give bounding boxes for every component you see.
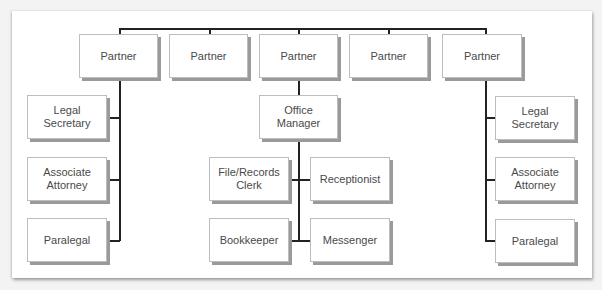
- partner-box-1: Partner: [79, 34, 158, 78]
- partner-box-4: Partner: [349, 34, 428, 78]
- right-associate-attorney-label: Associate Attorney: [506, 166, 564, 192]
- partner-box-5: Partner: [442, 34, 522, 78]
- left-branch-2: [107, 179, 120, 181]
- bookkeeper-box: Bookkeeper: [209, 218, 289, 262]
- left-branch-1: [107, 117, 120, 119]
- messenger-box: Messenger: [310, 218, 390, 262]
- office-manager-box: Office Manager: [259, 95, 338, 139]
- right-paralegal-box: Paralegal: [495, 219, 575, 263]
- right-branch-1: [485, 117, 495, 119]
- file-records-clerk-box: File/Records Clerk: [209, 157, 289, 201]
- left-paralegal-box: Paralegal: [27, 218, 107, 262]
- left-legal-secretary-label: Legal Secretary: [42, 104, 92, 130]
- office-branch-2: [289, 240, 310, 242]
- left-legal-secretary-box: Legal Secretary: [27, 95, 107, 139]
- right-legal-secretary-label: Legal Secretary: [510, 105, 560, 131]
- left-branch-3: [107, 240, 120, 242]
- left-associate-attorney-box: Associate Attorney: [27, 157, 107, 201]
- right-legal-secretary-box: Legal Secretary: [495, 96, 575, 140]
- right-branch-2: [485, 179, 495, 181]
- right-associate-attorney-box: Associate Attorney: [495, 157, 575, 201]
- right-branch-3: [485, 240, 495, 242]
- office-manager-label: Office Manager: [277, 104, 320, 130]
- left-associate-attorney-label: Associate Attorney: [38, 166, 96, 192]
- receptionist-box: Receptionist: [310, 157, 390, 201]
- partner-box-2: Partner: [169, 34, 248, 78]
- file-records-clerk-label: File/Records Clerk: [218, 166, 280, 192]
- office-branch-1: [289, 179, 310, 181]
- partner-box-3: Partner: [259, 34, 338, 78]
- partners-connector: [119, 28, 486, 30]
